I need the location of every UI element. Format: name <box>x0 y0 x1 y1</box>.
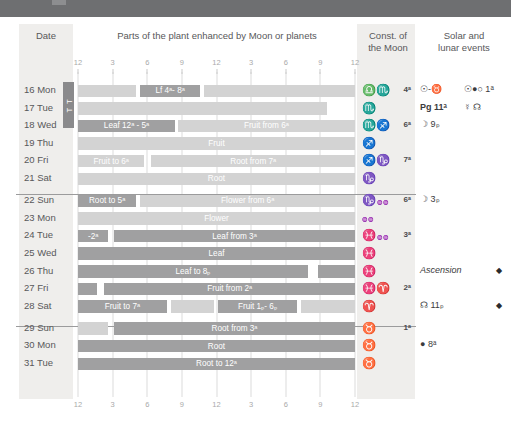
axis-tick-label: 3 <box>111 400 115 409</box>
constellation-degree: 1ᵃ <box>404 323 411 332</box>
plant-part-bar[interactable]: Fruit from 6ᵃ <box>178 120 355 133</box>
events-cell: Ascension◆ <box>420 263 508 281</box>
row-date-label: 23 Mon <box>21 212 73 223</box>
events-cell: ☉-♉☉●○ 1ᵃ <box>420 82 508 100</box>
calendar-row[interactable]: 16 MonLf 4ᵃ- 8ᵃ♎♏4ᵃ☉-♉☉●○ 1ᵃ <box>0 82 511 100</box>
events-cell: ☽ 3ₚ <box>420 192 508 210</box>
plant-part-bar[interactable]: Root from 3ᵃ <box>114 322 355 335</box>
row-date-label: 19 Thu <box>21 137 73 148</box>
calendar-row[interactable]: 18 WedLeaf 12ᵃ - 5ᵃFruit from 6ᵃ♏♐6ᵃ☽ 9ₚ <box>0 117 511 135</box>
axis-tick-mark <box>251 69 252 74</box>
plant-part-bar[interactable]: -2ᵃ <box>78 230 108 243</box>
row-date-label: 26 Thu <box>21 265 73 276</box>
calendar-row[interactable]: 23 MonFlower ♒♒ <box>0 210 511 228</box>
row-date-label: 22 Sun <box>21 194 73 205</box>
constellation-tiny-symbol: ♒♒ <box>376 200 389 205</box>
plant-part-bar[interactable]: Flower <box>78 212 355 225</box>
calendar-row[interactable]: 31 TueRoot to 12ᵃ♉ <box>0 355 511 373</box>
constellation-symbol: ♓♈ <box>362 281 390 295</box>
events-cell: Pg 11ᵃ☿ ☊ <box>420 100 508 118</box>
header-constellation-line2: the Moon <box>358 42 418 54</box>
row-date-label: 31 Tue <box>21 357 73 368</box>
calendar-row[interactable]: 19 ThuFruit♐ <box>0 135 511 153</box>
constellation-degree: 7ᵃ <box>404 155 411 164</box>
plant-part-bar[interactable]: Leaf from 3ᵃ <box>114 230 355 243</box>
header-constellation-line1: Const. of <box>358 30 418 42</box>
constellation-cell: ♓ <box>360 245 414 263</box>
calendar-row[interactable]: 30 MonRoot♉● 8ᵃ <box>0 337 511 355</box>
plant-part-bar[interactable] <box>78 322 108 335</box>
plant-part-bar[interactable] <box>78 85 136 98</box>
constellation-tiny-symbol: ♒♒ <box>362 217 374 222</box>
axis-tick-label: 9 <box>318 400 322 409</box>
constellation-symbol: ♐♑ <box>362 153 390 167</box>
axis-tick-label: 3 <box>249 58 253 67</box>
constellation-cell: ♉1ᵃ <box>360 320 414 338</box>
calendar-row[interactable]: 17 Tue♏Pg 11ᵃ☿ ☊ <box>0 100 511 118</box>
solar-lunar-event: Ascension <box>420 265 462 275</box>
events-cell <box>420 355 508 373</box>
constellation-symbol: ♏♐ <box>362 118 390 132</box>
plant-part-bar[interactable]: Leaf <box>78 247 355 260</box>
plant-part-bar[interactable]: Root <box>78 173 355 186</box>
constellation-cell: ♏♐6ᵃ <box>360 117 414 135</box>
calendar-row[interactable]: 25 WedLeaf♓ <box>0 245 511 263</box>
plant-part-bar[interactable]: Fruit to 7ᵃ <box>78 300 167 313</box>
constellation-cell: ♒♒ <box>360 210 414 228</box>
axis-tick-label: 12 <box>212 58 220 67</box>
axis-tick-label: 12 <box>74 400 82 409</box>
plant-part-bar[interactable]: Flower from 6ᵃ <box>140 195 355 208</box>
plant-part-bar[interactable] <box>78 102 327 115</box>
row-date-label: 27 Fri <box>21 282 73 293</box>
plant-part-bar[interactable]: Root from 7ᵃ <box>151 155 355 168</box>
plant-part-bar[interactable] <box>318 265 355 278</box>
axis-top: 123691236912 <box>0 58 511 69</box>
plant-part-bar[interactable]: Fruit <box>78 137 355 150</box>
plant-part-bar[interactable]: Fruit from 2ᵃ <box>104 283 355 296</box>
calendar-row[interactable]: 22 SunRoot to 5ᵃFlower from 6ᵃ♑ ♒♒6ᵃ☽ 3ₚ <box>0 192 511 210</box>
solar-lunar-event-secondary: ☉●○ 1ᵃ <box>464 84 494 94</box>
calendar-row[interactable]: 28 SatFruit to 7ᵃFruit 1ₚ- 6ₚ♈☊ 11ₚ◆ <box>0 298 511 316</box>
plant-part-bar[interactable]: Fruit to 6ᵃ <box>78 155 144 168</box>
axis-tick-mark <box>78 69 79 74</box>
plant-part-bar[interactable]: Leaf 12ᵃ - 5ᵃ <box>78 120 175 133</box>
axis-tick-mark <box>181 69 182 74</box>
axis-tick-label: 12 <box>212 400 220 409</box>
plant-part-bar[interactable] <box>301 300 355 313</box>
header-constellation: Const. of the Moon <box>358 30 418 54</box>
axis-tick-label: 3 <box>249 400 253 409</box>
plant-part-bar[interactable]: Root to 5ᵃ <box>78 195 136 208</box>
axis-tick-label: 6 <box>145 58 149 67</box>
plant-part-bar[interactable]: Leaf to 8ₚ <box>78 265 308 278</box>
event-marker-icon: ◆ <box>496 266 502 275</box>
constellation-degree: 2ᵃ <box>404 283 411 292</box>
plant-part-bar[interactable] <box>171 300 214 313</box>
top-band <box>0 0 511 17</box>
header-parts-of-plant: Parts of the plant enhanced by Moon or p… <box>78 30 356 42</box>
calendar-row[interactable]: 24 Tue-2ᵃLeaf from 3ᵃ♓ ♒♒3ᵃ <box>0 227 511 245</box>
calendar-row[interactable]: 21 SatRoot♑ <box>0 170 511 188</box>
calendar-row[interactable]: 29 SunRoot from 3ᵃ♉1ᵃ <box>0 320 511 338</box>
calendar-row[interactable]: 26 ThuLeaf to 8ₚ♓Ascension◆ <box>0 263 511 281</box>
constellation-cell: ♐♑7ᵃ <box>360 152 414 170</box>
events-cell <box>420 320 508 338</box>
constellation-tiny-symbol: ♒♒ <box>376 235 389 240</box>
header-events: Solar and lunar events <box>420 30 508 54</box>
header-date: Date <box>16 30 76 42</box>
axis-tick-label: 9 <box>318 58 322 67</box>
calendar-row[interactable]: 20 FriFruit to 6ᵃRoot from 7ᵃ♐♑7ᵃ <box>0 152 511 170</box>
plant-part-bar[interactable] <box>78 283 97 296</box>
plant-part-bar[interactable]: Root to 12ᵃ <box>78 358 355 371</box>
plant-part-bar[interactable]: Fruit 1ₚ- 6ₚ <box>218 300 297 313</box>
header-events-line2: lunar events <box>420 42 508 54</box>
axis-tick-label: 9 <box>180 58 184 67</box>
plant-part-bar[interactable]: Root <box>78 340 355 353</box>
constellation-symbol: ♓ <box>362 264 376 278</box>
row-date-label: 18 Wed <box>21 119 73 130</box>
row-date-label: 24 Tue <box>21 229 73 240</box>
axis-tick-mark <box>320 69 321 74</box>
calendar-row[interactable]: 27 FriFruit from 2ᵃ♓♈2ᵃ <box>0 280 511 298</box>
plant-part-bar[interactable]: Lf 4ᵃ- 8ᵃ <box>140 85 200 98</box>
plant-part-bar[interactable] <box>204 85 355 98</box>
events-cell <box>420 280 508 298</box>
